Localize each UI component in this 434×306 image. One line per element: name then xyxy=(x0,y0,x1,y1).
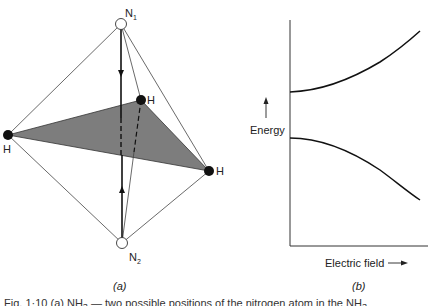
caption-text: Fig. 1·10 (a) NH3 — two possible positio… xyxy=(4,298,367,306)
label-n2: N2 xyxy=(129,251,141,265)
y-axis-label: Energy xyxy=(250,124,285,136)
label-h-left: H xyxy=(3,143,11,155)
hydrogen-plane xyxy=(8,100,209,171)
label-n1: N1 xyxy=(125,7,137,21)
atom-h-top xyxy=(136,95,146,105)
arrow-down-icon xyxy=(118,70,124,77)
upper-energy-curve xyxy=(290,31,420,92)
atom-n2 xyxy=(117,238,128,249)
atom-h-right xyxy=(204,166,214,176)
x-axis-label: Electric field xyxy=(325,257,384,269)
arrow-right-icon xyxy=(401,261,408,266)
arrow-up-icon xyxy=(264,97,269,104)
panel-b-label: (b) xyxy=(352,280,366,292)
atom-h-left xyxy=(3,130,13,140)
label-h-top: H xyxy=(147,94,155,106)
panel-a-label: (a) xyxy=(113,280,127,292)
figure-caption-fragment: Fig. 1·10 (a) NH3 — two possible positio… xyxy=(4,298,434,306)
ammonia-diagram: N1 N2 H H H (a) xyxy=(3,7,224,292)
lower-energy-curve xyxy=(290,138,420,200)
atom-n1 xyxy=(116,19,127,30)
energy-chart: Energy Electric field (b) xyxy=(250,20,428,292)
label-h-right: H xyxy=(216,165,224,177)
arrow-up-icon xyxy=(119,186,125,193)
